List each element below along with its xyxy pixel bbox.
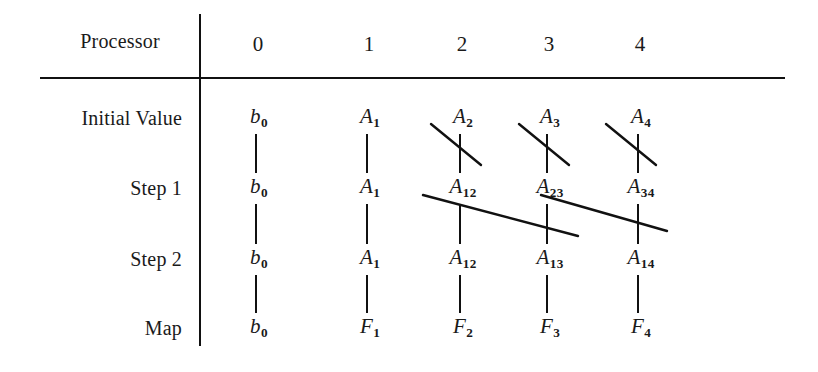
row-label-step-1: Step 1: [130, 178, 182, 198]
column-header-1: 1: [364, 34, 375, 55]
diagonal-connector-A1-to-A13: [423, 195, 578, 236]
cell-b0-r3c0: b0: [250, 316, 268, 339]
cell-A23-r1c3: A23: [537, 176, 564, 199]
connector-lines: [0, 0, 818, 372]
column-header-0: 0: [253, 34, 264, 55]
cell-A13-r2c3: A13: [537, 247, 564, 270]
cell-A2-r0c2: A2: [453, 106, 473, 129]
table-corner-label: Processor: [80, 31, 160, 51]
cell-F2-r3c2: F2: [453, 316, 473, 339]
cell-A34-r1c4: A34: [628, 176, 655, 199]
row-label-initial-value: Initial Value: [81, 108, 182, 128]
cell-A4-r0c4: A4: [631, 106, 651, 129]
cell-F1-r3c1: F1: [360, 316, 380, 339]
label-column-separator-rule: [199, 14, 201, 346]
column-header-3: 3: [544, 34, 555, 55]
row-label-step-2: Step 2: [130, 249, 182, 269]
cell-b0-r2c0: b0: [250, 247, 268, 270]
cell-A3-r0c3: A3: [540, 106, 560, 129]
cell-A14-r2c4: A14: [628, 247, 655, 270]
cell-A12-r2c2: A12: [450, 247, 477, 270]
diagonal-connector-A2-to-A23: [519, 124, 569, 165]
column-header-2: 2: [457, 34, 468, 55]
cell-F3-r3c3: F3: [540, 316, 560, 339]
cell-F4-r3c4: F4: [631, 316, 651, 339]
cell-A1-r2c1: A1: [360, 247, 380, 270]
cell-b0-r1c0: b0: [250, 176, 268, 199]
cell-A1-r1c1: A1: [360, 176, 380, 199]
diagonal-connector-A12-to-A14: [541, 195, 667, 231]
cell-A1-r0c1: A1: [360, 106, 380, 129]
parallel-prefix-table-figure: Processor 01234Initial Valueb0A1A2A3A4St…: [0, 0, 818, 372]
column-header-4: 4: [635, 34, 646, 55]
row-label-map: Map: [145, 318, 182, 338]
cell-b0-r0c0: b0: [250, 106, 268, 129]
diagonal-connector-A1-to-A12: [431, 124, 481, 165]
header-separator-rule: [40, 77, 785, 79]
cell-A12-r1c2: A12: [450, 176, 477, 199]
